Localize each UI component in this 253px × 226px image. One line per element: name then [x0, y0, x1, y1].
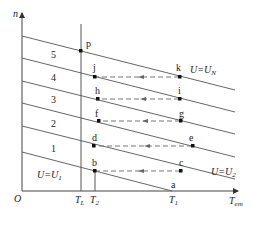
point-label-g: g [179, 108, 184, 119]
point-label-h: h [95, 85, 100, 96]
point-label-e: e [189, 132, 194, 143]
region-1: 1 [51, 143, 56, 154]
point-label-p: p [86, 38, 91, 49]
point-label-b: b [92, 157, 97, 168]
point-label-a: a [171, 179, 176, 190]
label-u-un: U=UN [190, 64, 216, 77]
region-4: 4 [51, 72, 56, 83]
point-label-c: c [179, 157, 184, 168]
tick-t1: T1 [169, 194, 178, 207]
region-3: 3 [51, 94, 56, 105]
tick-tl: TL [75, 194, 85, 207]
label-u-u1: U=U1 [37, 169, 62, 182]
point-label-k: k [176, 62, 181, 73]
tick-t2: T2 [90, 194, 100, 207]
label-u-u2: U=U2 [211, 166, 236, 179]
speed-torque-diagram: p j k h i f g d e b c a 5 4 3 2 1 U=UN U… [0, 0, 253, 226]
point-label-j: j [92, 62, 96, 73]
x-axis-label: Tem [229, 195, 243, 208]
origin-label: O [14, 193, 21, 204]
point-label-d: d [92, 132, 97, 143]
point-label-f: f [95, 108, 99, 119]
point-label-i: i [178, 85, 181, 96]
region-2: 2 [51, 118, 56, 129]
y-axis-label: n [13, 8, 18, 19]
region-5: 5 [51, 49, 56, 60]
